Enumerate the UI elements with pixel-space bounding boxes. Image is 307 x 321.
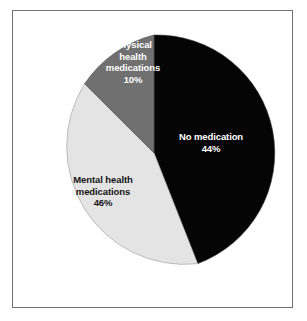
pie-label-physical-health-line3: medications [91,62,175,74]
pie-label-physical-health-line1: Physical [91,39,175,51]
pie-chart-area: Physical health medications 10% No medic… [0,0,307,321]
pie-label-no-medication: No medication 44% [165,131,257,154]
pie-label-physical-health: Physical health medications 10% [91,39,175,85]
pie-label-physical-health-line2: health [91,51,175,63]
pie-label-mental-health-line1: Mental health [51,174,155,186]
pie-label-no-medication-value: 44% [165,143,257,155]
pie-label-physical-health-value: 10% [91,74,175,86]
pie-label-no-medication-line1: No medication [165,131,257,143]
pie-label-mental-health-line2: medications [51,186,155,198]
pie-label-mental-health: Mental health medications 46% [51,174,155,209]
pie-chart-figure: Physical health medications 10% No medic… [0,0,307,321]
pie-label-mental-health-value: 46% [51,197,155,209]
